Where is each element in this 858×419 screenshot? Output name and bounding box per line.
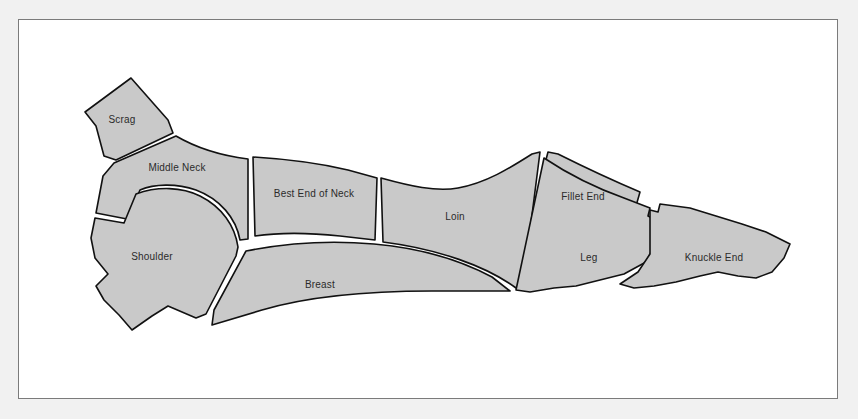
cut-label-scrag: Scrag: [108, 114, 135, 125]
cut-label-shoulder: Shoulder: [131, 251, 173, 262]
cut-label-middle-neck: Middle Neck: [148, 162, 206, 173]
cut-label-best-end-of-neck: Best End of Neck: [274, 188, 355, 199]
cuts-layer: [85, 78, 790, 330]
cut-label-loin: Loin: [445, 211, 465, 222]
cut-label-leg: Leg: [580, 252, 597, 263]
diagram-page: ScragMiddle NeckShoulderBest End of Neck…: [0, 0, 858, 419]
cut-label-knuckle-end: Knuckle End: [685, 252, 743, 263]
cut-label-fillet-end: Fillet End: [561, 191, 605, 202]
cut-label-breast: Breast: [305, 279, 335, 290]
butchery-cuts-diagram: ScragMiddle NeckShoulderBest End of Neck…: [0, 0, 858, 419]
